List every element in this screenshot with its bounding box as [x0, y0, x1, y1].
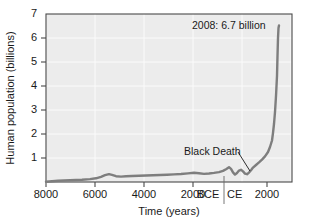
population-growth-figure: 7 6 5 4 3 2 1 8000 6000 4000 2000 BCE CE…	[0, 0, 318, 224]
x-tick-label-8000bce: 8000	[34, 188, 58, 200]
x-axis-title: Time (years)	[138, 205, 199, 217]
y-tick-label-7: 7	[31, 7, 37, 19]
x-tick-label-ce: CE	[227, 188, 242, 200]
plot-area-background	[46, 14, 292, 182]
x-tick-label-6000bce: 6000	[83, 188, 107, 200]
y-axis-tickmarks	[41, 38, 46, 158]
x-tick-label-2000ce: 2000	[255, 188, 279, 200]
y-tick-label-6: 6	[31, 31, 37, 43]
population-chart-canvas: 7 6 5 4 3 2 1 8000 6000 4000 2000 BCE CE…	[0, 0, 318, 224]
x-tick-label-bce: BCE	[197, 188, 220, 200]
y-tick-label-4: 4	[31, 79, 37, 91]
black-death-annotation-label: Black Death	[184, 145, 241, 157]
x-tick-label-4000bce: 4000	[132, 188, 156, 200]
y-tick-label-5: 5	[31, 55, 37, 67]
y-tick-label-1: 1	[31, 151, 37, 163]
y-tick-label-3: 3	[31, 103, 37, 115]
y-axis-title: Human population (billions)	[4, 31, 16, 164]
peak-annotation-label: 2008: 6.7 billion	[192, 19, 266, 31]
x-axis-tickmarks	[46, 182, 267, 187]
y-tick-label-2: 2	[31, 127, 37, 139]
